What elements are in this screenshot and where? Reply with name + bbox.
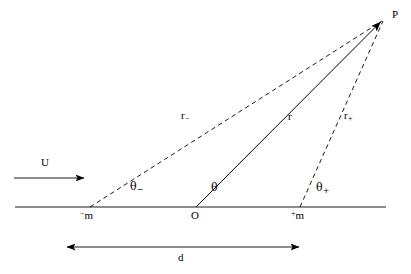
label-r-plus-sign: + [348, 114, 353, 123]
label-theta-plus: θ+ [316, 182, 330, 195]
label-point-m-plus: +m [291, 210, 304, 221]
label-r-minus-sign: − [185, 114, 190, 123]
label-point-m-plus-base: m [296, 209, 305, 221]
label-theta-minus-sign: − [137, 185, 144, 194]
label-point-m-minus: −m [80, 210, 93, 221]
diagram-svg [0, 0, 411, 274]
label-theta-plus-base: θ [316, 181, 323, 194]
label-point-m-minus-base: m [85, 209, 94, 221]
label-r-plus: r+ [344, 110, 352, 123]
label-theta-minus-base: θ [130, 180, 137, 193]
label-flow-u: U [41, 157, 49, 168]
label-theta-minus: θ− [130, 181, 144, 194]
label-point-o: O [191, 210, 199, 221]
label-r-center: r [288, 111, 292, 122]
label-theta-plus-sign: + [323, 186, 330, 195]
label-r-minus: r− [181, 110, 189, 123]
label-distance-d: d [178, 252, 184, 263]
line-r-plus-dashed [300, 21, 383, 207]
diagram-canvas-root: P O −m +m U d r− r r+ θ− θ θ+ [0, 0, 411, 274]
label-theta-center: θ [211, 182, 218, 193]
label-point-p: P [392, 9, 398, 20]
